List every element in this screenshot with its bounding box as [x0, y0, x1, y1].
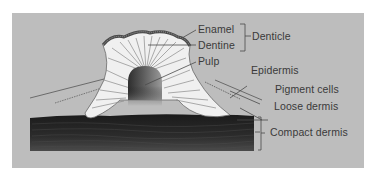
- label-pigment-cells: Pigment cells: [275, 84, 339, 95]
- label-dentine: Dentine: [198, 40, 235, 51]
- label-loose-dermis: Loose dermis: [274, 101, 338, 112]
- compact-dermis-layer: [30, 114, 254, 151]
- label-denticle: Denticle: [252, 31, 291, 42]
- label-epidermis: Epidermis: [251, 65, 299, 76]
- label-enamel: Enamel: [198, 24, 234, 35]
- label-pulp: Pulp: [198, 56, 219, 67]
- label-compact-dermis: Compact dermis: [270, 127, 348, 138]
